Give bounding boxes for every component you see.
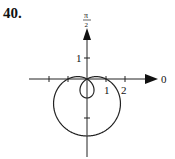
polar-plot: 1 2 1 0 π 2 <box>0 0 175 159</box>
zero-angle-label: 0 <box>161 73 167 85</box>
x-tick-label-1: 1 <box>104 84 110 96</box>
polar-axis-arrow-icon <box>145 74 158 84</box>
y-tick-label-1: 1 <box>76 52 82 64</box>
vertical-axis-arrow-icon <box>83 28 91 40</box>
pi-denominator: 2 <box>85 21 89 29</box>
pi-numerator: π <box>84 11 88 20</box>
x-tick-label-2: 2 <box>121 84 127 96</box>
